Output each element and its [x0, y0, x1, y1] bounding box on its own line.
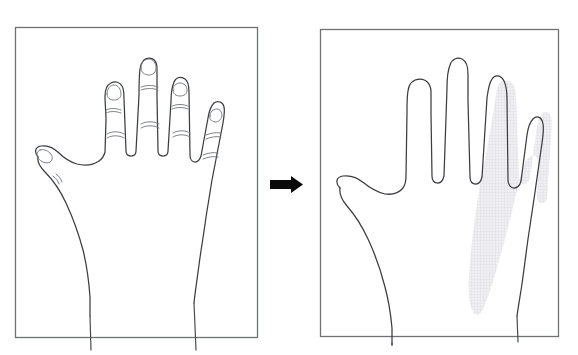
figure-root: Hand dermatome comparison diagram Normal…: [0, 0, 578, 355]
arrow-right-icon: [270, 176, 303, 193]
panel-left: [16, 28, 258, 351]
panel-right: [321, 30, 559, 346]
panel-left-frame: [16, 28, 258, 338]
figure-canvas: [0, 0, 578, 355]
transition-arrow: [270, 176, 303, 193]
